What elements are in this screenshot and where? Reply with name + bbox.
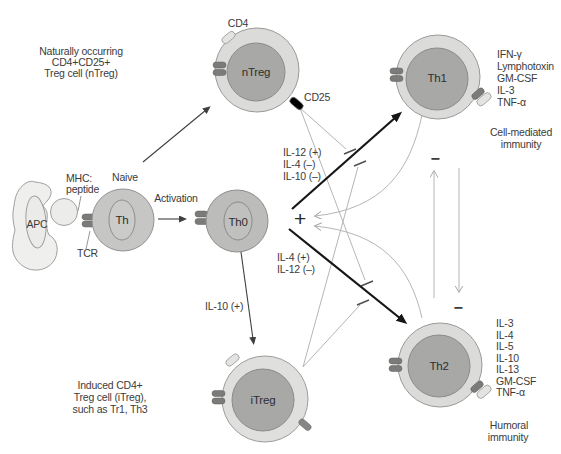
mhc-label-line2: peptide bbox=[66, 183, 99, 195]
t-cell-differentiation-diagram: Naturally occurring CD4+CD25+ Treg cell … bbox=[0, 0, 561, 454]
th2-function-line2: immunity bbox=[488, 431, 529, 443]
th1-cytokine: TNF-α bbox=[497, 96, 526, 108]
tcr-icon bbox=[213, 70, 226, 76]
plus-sign: + bbox=[294, 207, 306, 230]
th1-cytokine: GM-CSF bbox=[497, 72, 537, 84]
th1-cytokine: IL-3 bbox=[497, 84, 515, 96]
th2-function-line1: Humoral bbox=[490, 419, 528, 431]
mhc-pointer-line bbox=[78, 196, 81, 211]
naive-to-ntreg-arrow bbox=[143, 110, 206, 162]
itreg-label: iTreg bbox=[251, 394, 276, 406]
th1-positive-feedback-arc bbox=[315, 115, 422, 216]
cd25-receptor-icon bbox=[289, 96, 305, 111]
th2-positive-feedback-arc bbox=[315, 226, 422, 318]
th2-induction-line2: IL-12 (–) bbox=[277, 263, 315, 275]
th1-cytokine: Lymphotoxin bbox=[497, 60, 554, 72]
ntreg-note-line3: Treg cell (nTreg) bbox=[44, 67, 117, 79]
tcr-icon bbox=[389, 366, 402, 372]
th1-function-line2: immunity bbox=[501, 138, 542, 150]
cd25-label: CD25 bbox=[304, 91, 330, 103]
activation-label: Activation bbox=[154, 192, 198, 204]
th1-function-line1: Cell-mediated bbox=[490, 126, 553, 138]
differentiation-arrows bbox=[143, 110, 401, 339]
tcr-icon bbox=[389, 358, 402, 364]
th1-induction-line1: IL-12 (+) bbox=[283, 146, 321, 158]
tick-itreg-on-th2-path bbox=[357, 300, 369, 305]
th1-cytokine: IFN-γ bbox=[497, 48, 523, 60]
naive-th-label: Th bbox=[115, 214, 128, 226]
itreg-induction-label: IL-10 (+) bbox=[205, 300, 243, 312]
th0-label: Th0 bbox=[228, 216, 247, 228]
itreg-note-line3: such as Tr1, Th3 bbox=[73, 403, 148, 415]
th2-induction-line1: IL-4 (+) bbox=[277, 251, 310, 263]
tcr-icon bbox=[212, 398, 225, 404]
minus-sign-lower: − bbox=[453, 299, 462, 316]
surface-receptor-dark-icon bbox=[298, 418, 313, 432]
tick-itreg-on-th1-path bbox=[354, 161, 366, 166]
th1-induction-line2: IL-4 (–) bbox=[283, 158, 315, 170]
diagram-svg: Naturally occurring CD4+CD25+ Treg cell … bbox=[0, 0, 561, 454]
th2-cytokine: TNF-α bbox=[496, 386, 525, 398]
tcr-icon bbox=[212, 391, 225, 397]
tick-ntreg-on-th2-path bbox=[361, 281, 373, 286]
tcr-label: TCR bbox=[77, 247, 99, 259]
th2-cytokine: IL-3 bbox=[496, 317, 514, 329]
th2-cytokine: IL-13 bbox=[496, 363, 519, 375]
ntreg-inhibits-th1-line bbox=[300, 108, 346, 149]
inhibition-ticks bbox=[344, 149, 373, 305]
apc-label: APC bbox=[27, 218, 49, 230]
itreg-note-line2: Treg cell (iTreg), bbox=[74, 391, 147, 403]
th1-label: Th1 bbox=[427, 72, 446, 84]
tcr-icon bbox=[213, 62, 226, 68]
tcr-icon bbox=[390, 68, 403, 74]
th2-cytokine: IL-5 bbox=[496, 340, 514, 352]
minus-sign-upper: − bbox=[430, 150, 439, 167]
th2-label: Th2 bbox=[429, 360, 448, 372]
th1-induction-line3: IL-10 (–) bbox=[283, 170, 321, 182]
naive-caption: Naive bbox=[112, 171, 138, 183]
cd4-label: CD4 bbox=[228, 17, 249, 29]
mhc-peptide-knob bbox=[51, 199, 78, 226]
ntreg-label: nTreg bbox=[242, 66, 271, 78]
tcr-icon bbox=[390, 76, 403, 82]
th0-to-itreg-arrow bbox=[241, 252, 253, 339]
itreg-note-line1: Induced CD4+ bbox=[77, 379, 142, 391]
